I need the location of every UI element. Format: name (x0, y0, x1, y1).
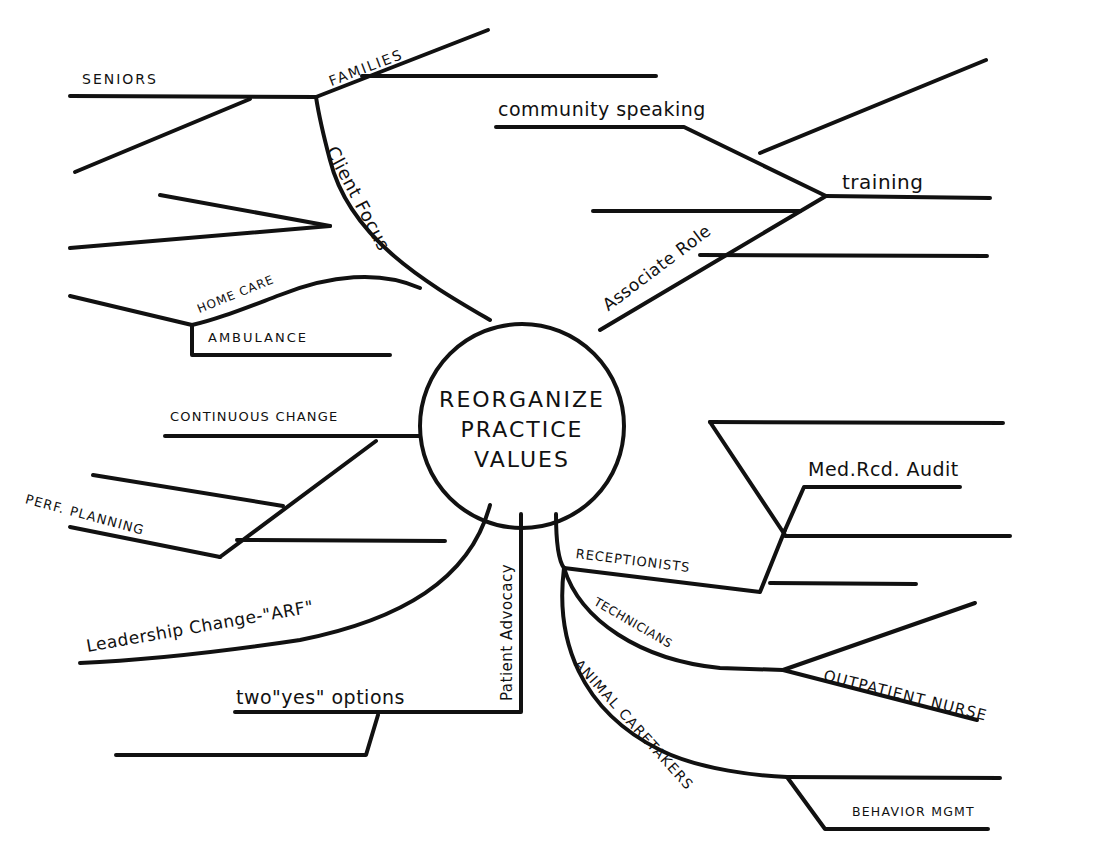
branch-training (826, 196, 990, 198)
label-community-speaking: community speaking (498, 100, 706, 119)
branch-audit-sub1 (710, 422, 1003, 423)
label-behavior-mgmt: BEHAVIOR MGMT (852, 806, 975, 819)
branch-client-focus (316, 97, 490, 320)
label-seniors: SENIORS (82, 72, 158, 86)
label-med-rcd-audit: Med.Rcd. Audit (808, 460, 959, 479)
branch-perf-sub1 (93, 475, 283, 506)
branch-community-speaking-sub (760, 60, 986, 153)
branch-home-care-sub (70, 296, 192, 325)
branch-seniors (70, 96, 316, 97)
branch-associate-sub2 (700, 255, 987, 256)
label-two-yes-options: two"yes" options (236, 688, 405, 707)
label-continuous-change: CONTINUOUS CHANGE (170, 410, 338, 423)
branch-receptionists-sub (770, 583, 916, 584)
branch-audit-sub1-diag (710, 422, 785, 535)
branch-associate-role (600, 196, 826, 330)
branch-technicians-sub (783, 603, 975, 670)
branch-behavior-mgmt (787, 777, 988, 829)
branch-families (316, 30, 488, 97)
center-node: REORGANIZE PRACTICE VALUES (418, 385, 626, 475)
branch-perf-sub2 (237, 540, 445, 541)
label-training: training (842, 172, 923, 192)
branch-two-yes-sub (116, 715, 378, 755)
branch-med-rcd-audit (785, 487, 960, 530)
center-line-2: PRACTICE (418, 415, 626, 445)
branch-community-speaking (496, 127, 826, 196)
label-patient-advocacy: Patient Advocacy (500, 564, 515, 701)
center-line-1: REORGANIZE (418, 385, 626, 415)
label-ambulance: AMBULANCE (208, 331, 308, 344)
branch-unlabeled-client-sub (160, 195, 330, 226)
branch-animal-caretakers-sub (787, 777, 1000, 778)
branch-seniors-sub (75, 99, 250, 172)
branch-unlabeled-client (70, 226, 330, 248)
branch-perf-planning (70, 527, 220, 557)
center-line-3: VALUES (418, 445, 626, 475)
